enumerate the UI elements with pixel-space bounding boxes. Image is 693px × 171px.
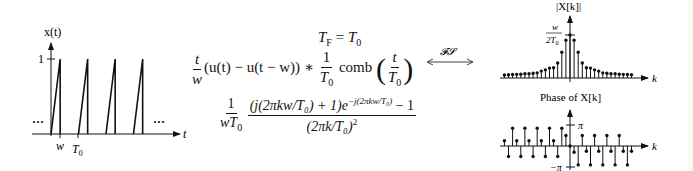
phase-stem-dot — [531, 155, 534, 158]
phase-stem-dot — [544, 155, 547, 158]
phase-stem-dot — [548, 126, 551, 129]
phase-stem-dot — [622, 150, 625, 153]
phase-stem-dot — [552, 139, 555, 142]
phase-stem-dot — [560, 126, 563, 129]
phase-stem-dot — [577, 163, 580, 166]
phase-stem-dot — [613, 163, 616, 166]
phase-k-label: k — [652, 140, 658, 152]
phase-stem-dot — [581, 134, 584, 137]
phase-stem-plot: Phase of X[k] k π −π — [0, 0, 693, 171]
phase-tick-label-pi: π — [578, 120, 584, 131]
phase-title: Phase of X[k] — [540, 91, 601, 103]
phase-stem-dot — [568, 144, 571, 147]
phase-stem-dot — [511, 126, 514, 129]
phase-stem-dot — [630, 150, 633, 153]
phase-stem-dot — [593, 134, 596, 137]
phase-stem-dot — [572, 151, 575, 154]
phase-tick-label-minus-pi: −π — [550, 162, 563, 171]
phase-stem-dot — [618, 134, 621, 137]
phase-stem-dot — [515, 139, 518, 142]
phase-stem-dot — [589, 163, 592, 166]
phase-stem-dot — [527, 139, 530, 142]
phase-stem-dot — [540, 139, 543, 142]
phase-stem-dot — [507, 155, 510, 158]
phase-stem-dot — [609, 150, 612, 153]
phase-stem-dot — [519, 155, 522, 158]
phase-stem-dot — [585, 150, 588, 153]
phase-stem-dot — [536, 126, 539, 129]
phase-stem-dot — [556, 155, 559, 158]
phase-stem-dot — [564, 134, 567, 137]
phase-stem-dot — [626, 163, 629, 166]
phase-stem-dot — [605, 134, 608, 137]
phase-stem-dot — [503, 139, 506, 142]
phase-stem-dot — [597, 150, 600, 153]
phase-stem-dot — [601, 163, 604, 166]
phase-stem-dot — [523, 126, 526, 129]
